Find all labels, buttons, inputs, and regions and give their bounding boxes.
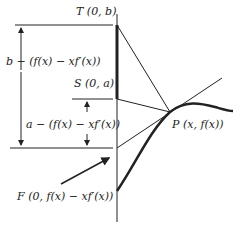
label-dist-b: b − (f(x) − xf′(x)) bbox=[6, 55, 100, 68]
label-s: S (0, a) bbox=[74, 77, 114, 90]
label-dist-a: a − (f(x) − xf′(x)) bbox=[26, 118, 120, 131]
line-s-to-p bbox=[117, 99, 170, 112]
diagram-canvas: T (0, b) S (0, a) b − (f(x) − xf′(x)) a … bbox=[0, 0, 241, 228]
label-t: T (0, b) bbox=[76, 5, 116, 18]
label-p: P (x, f(x)) bbox=[171, 118, 224, 131]
function-curve bbox=[117, 103, 233, 191]
line-t-to-p bbox=[117, 25, 170, 112]
f-pointer-arrow bbox=[61, 158, 109, 184]
label-f: F (0, f(x) − xf′(x)) bbox=[16, 190, 113, 203]
